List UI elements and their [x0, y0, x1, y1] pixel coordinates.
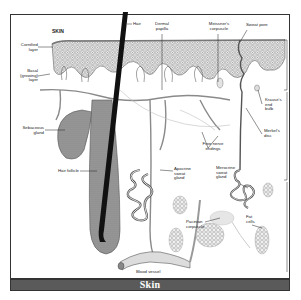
fat-lobule [255, 226, 269, 254]
epidermis-layer [52, 40, 285, 79]
blood-vessel [120, 252, 190, 270]
fat-lobule [263, 183, 273, 197]
label-cornified-layer: Cornified layer [12, 43, 38, 52]
diagram-title: SKIN [52, 28, 64, 34]
label-basal-layer: Basal (growing) layer [12, 69, 38, 83]
label-merkels-disc: Merkel's disc [264, 129, 280, 138]
label-fat-cells: Fat cells [246, 215, 255, 224]
fat-lobule [169, 228, 183, 252]
label-meissners-corpuscle: Meissner's corpuscle [205, 22, 233, 31]
label-blood-vessel: Blood vessel [136, 270, 160, 275]
label-pacinian-corpuscle: Pacinian corpuscle [186, 220, 204, 229]
skin-cross-section-illustration [0, 0, 301, 300]
pacinian-corpuscle [210, 211, 234, 225]
label-merocrine-sweat-gland: Merocrine sweat gland [216, 166, 235, 180]
label-hair: Hair [133, 22, 141, 27]
fat-lobule [173, 196, 187, 214]
caption-text: Skin [140, 280, 161, 290]
caption-bar: Skin [10, 279, 290, 291]
label-krauses-end-bulb: Krause's end bulb [265, 98, 282, 112]
label-dermal-papilla: Dermal papilla [151, 22, 173, 31]
sebaceous-gland [58, 110, 92, 159]
label-free-nerve-endings: Free nerve endings [200, 142, 226, 151]
label-sebaceous-gland: Sebaceous gland [14, 126, 44, 135]
label-sweat-pore: Sweat pore [246, 23, 268, 28]
label-hair-follicle: Hair follicle [44, 169, 79, 174]
label-apocrine-sweat-gland: Apocrine sweat gland [174, 167, 191, 181]
krauses-end-bulb [255, 85, 260, 91]
